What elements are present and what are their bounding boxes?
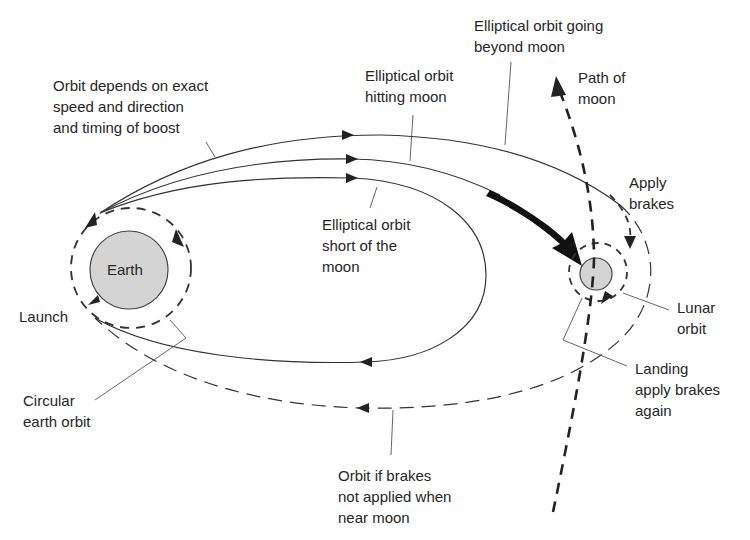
apply-brakes-path [610, 195, 630, 240]
label-elliptical-beyond: Elliptical orbit going beyond moon [474, 15, 603, 57]
label-elliptical-short: Elliptical orbit short of the moon [322, 214, 410, 277]
leader-circular-earth-orbit [95, 320, 186, 400]
path-of-moon [553, 92, 594, 512]
earth-label: Earth [107, 261, 143, 278]
leader-elliptical-beyond [505, 62, 511, 145]
leader-lunar-orbit [623, 293, 669, 310]
label-circular-earth-orbit: Circular earth orbit [23, 390, 91, 432]
orbit-diagram: Earth Orbit depends on exact speed and d… [0, 0, 750, 540]
launch-arrow-icon [85, 212, 97, 228]
arrow-outer-icon [342, 130, 354, 140]
arrow-dashed-return-icon [357, 403, 369, 413]
label-landing: Landing apply brakes again [635, 358, 720, 421]
label-path-of-moon: Path of moon [578, 67, 626, 109]
earth-orbit-arrow-launch-icon [88, 295, 100, 305]
label-lunar-orbit: Lunar orbit [677, 297, 715, 339]
approach-arrow-icon [486, 190, 582, 266]
arrow-inner-return-icon [360, 357, 372, 367]
moon-body [580, 258, 612, 290]
leader-orbit-depends [206, 142, 215, 157]
label-orbit-depends: Orbit depends on exact speed and directi… [53, 75, 208, 138]
elliptical-orbit-beyond-moon [100, 135, 620, 213]
label-elliptical-hitting: Elliptical orbit hitting moon [365, 65, 453, 107]
apply-brakes-arrow-icon [624, 236, 636, 249]
label-launch: Launch [19, 306, 68, 327]
arrow-middle-icon [346, 154, 358, 164]
leader-orbit-no-brakes [391, 410, 393, 455]
arrow-inner-icon [346, 173, 358, 183]
label-apply-brakes: Apply brakes [629, 172, 674, 214]
label-orbit-no-brakes: Orbit if brakes not applied when near mo… [338, 465, 451, 528]
leader-elliptical-hitting [410, 115, 413, 161]
elliptical-orbit-hitting-moon [100, 159, 500, 213]
leader-elliptical-short [370, 187, 377, 208]
leader-landing [563, 298, 627, 366]
path-of-moon-arrow-icon [551, 76, 566, 97]
